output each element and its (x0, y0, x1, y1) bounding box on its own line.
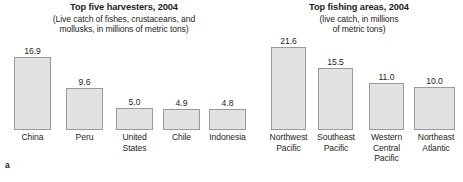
bar-united-states[interactable] (116, 108, 153, 130)
bar-northeast-atlantic[interactable] (414, 87, 455, 130)
cat-label-western-central-pacific: Western Central Pacific (361, 132, 412, 164)
bar-group-peru: 9.6 (66, 88, 103, 130)
bar-value-western-central-pacific: 11.0 (378, 72, 394, 82)
cat-label-western-central-pacific-line2: Central (361, 143, 412, 154)
chart-panel-harvesters: Top five harvesters, 2004 (Live catch of… (0, 0, 248, 182)
cat-label-peru-line1: Peru (62, 132, 107, 143)
bar-group-southeast-pacific: 15.5 (318, 68, 353, 130)
plot-area-right: 21.6 15.5 11.0 10.0 (255, 0, 463, 130)
bar-china[interactable] (14, 57, 51, 130)
bar-value-northwest-pacific: 21.6 (280, 36, 297, 46)
bar-group-northwest-pacific: 21.6 (271, 47, 306, 130)
bar-value-southeast-pacific: 15.5 (327, 57, 344, 67)
figure-container: Top five harvesters, 2004 (Live catch of… (0, 0, 463, 182)
bar-southeast-pacific[interactable] (318, 68, 353, 130)
bar-value-northeast-atlantic: 10.0 (426, 76, 443, 86)
bar-chile[interactable] (163, 109, 200, 130)
figure-marker: a (5, 160, 10, 170)
cat-label-southeast-pacific-line2: Pacific (308, 143, 364, 154)
plot-area-left: 16.9 9.6 5.0 4.9 4.8 (0, 0, 248, 130)
cat-label-united-states-line2: States (112, 143, 157, 154)
cat-label-chile: Chile (159, 132, 204, 143)
cat-label-southeast-pacific: Southeast Pacific (308, 132, 364, 153)
cat-label-southeast-pacific-line1: Southeast (308, 132, 364, 143)
bar-peru[interactable] (66, 88, 103, 130)
cat-label-western-central-pacific-line1: Western (361, 132, 412, 143)
bar-value-peru: 9.6 (79, 77, 91, 87)
bar-group-chile: 4.9 (163, 109, 200, 130)
bar-value-china: 16.9 (24, 46, 41, 56)
bar-western-central-pacific[interactable] (369, 83, 404, 130)
cat-label-northeast-atlantic-line2: Atlantic (409, 143, 463, 154)
bar-value-united-states: 5.0 (129, 97, 141, 107)
cat-label-china: China (10, 132, 55, 143)
bar-group-united-states: 5.0 (116, 108, 153, 130)
bar-indonesia[interactable] (209, 109, 246, 130)
cat-label-chile-line1: Chile (159, 132, 204, 143)
cat-label-northeast-atlantic: Northeast Atlantic (409, 132, 463, 153)
bar-group-indonesia: 4.8 (209, 109, 246, 130)
cat-label-northeast-atlantic-line1: Northeast (409, 132, 463, 143)
bar-northwest-pacific[interactable] (271, 47, 306, 130)
bar-group-western-central-pacific: 11.0 (369, 83, 404, 130)
bar-group-china: 16.9 (14, 57, 51, 130)
chart-panel-fishing-areas: Top fishing areas, 2004 (live catch, in … (255, 0, 463, 182)
cat-label-indonesia: Indonesia (200, 132, 255, 143)
bar-group-northeast-atlantic: 10.0 (414, 87, 455, 130)
bar-value-chile: 4.9 (176, 98, 188, 108)
cat-label-indonesia-line1: Indonesia (200, 132, 255, 143)
cat-label-united-states-line1: United (112, 132, 157, 143)
cat-label-united-states: United States (112, 132, 157, 153)
cat-label-western-central-pacific-line3: Pacific (361, 153, 412, 164)
cat-label-peru: Peru (62, 132, 107, 143)
bar-value-indonesia: 4.8 (222, 98, 234, 108)
cat-label-china-line1: China (10, 132, 55, 143)
